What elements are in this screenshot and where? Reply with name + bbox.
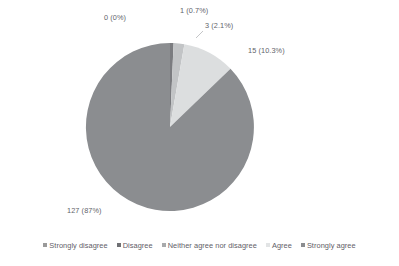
pie-chart-figure: 0 (0%) 1 (0.7%) 3 (2.1%) 15 (10.3%) 127 … — [0, 0, 399, 266]
legend-item-neither-agree-nor-disagree[interactable]: Neither agree nor disagree — [162, 241, 257, 250]
legend-label: Strongly agree — [307, 241, 356, 250]
data-label-disagree: 1 (0.7%) — [180, 7, 208, 15]
data-label-agree: 15 (10.3%) — [248, 47, 285, 55]
legend-label: Strongly disagree — [49, 241, 107, 250]
chart-legend: Strongly disagree Disagree Neither agree… — [0, 236, 399, 254]
legend-swatch-icon — [266, 243, 270, 247]
data-label-strongly-disagree: 0 (0%) — [104, 14, 126, 22]
legend-swatch-icon — [162, 243, 166, 247]
leader-line-neither — [196, 31, 203, 38]
legend-swatch-icon — [301, 243, 305, 247]
legend-swatch-icon — [117, 243, 121, 247]
legend-label: Agree — [272, 241, 292, 250]
legend-item-disagree[interactable]: Disagree — [117, 241, 153, 250]
data-label-neither: 3 (2.1%) — [205, 22, 233, 30]
pie-slices-group — [0, 0, 399, 228]
data-label-strongly-agree: 127 (87%) — [67, 207, 102, 215]
legend-swatch-icon — [43, 243, 47, 247]
pie-plot-area: 0 (0%) 1 (0.7%) 3 (2.1%) 15 (10.3%) 127 … — [0, 0, 399, 228]
legend-item-strongly-disagree[interactable]: Strongly disagree — [43, 241, 107, 250]
legend-item-strongly-agree[interactable]: Strongly agree — [301, 241, 356, 250]
legend-label: Neither agree nor disagree — [168, 241, 257, 250]
legend-item-agree[interactable]: Agree — [266, 241, 292, 250]
legend-label: Disagree — [123, 241, 153, 250]
